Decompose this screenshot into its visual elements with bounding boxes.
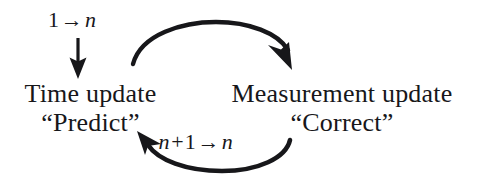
iteration-start-value: 1 [48,7,59,32]
iteration-variable-n: n [84,7,96,32]
measurement-update-title: Measurement update [222,80,462,108]
entry-down-arrow [70,38,87,79]
increment-variable-n-right: n [221,129,233,154]
plus-sign: + [170,129,185,154]
iteration-start-label: 1→n [48,8,97,31]
kalman-cycle-diagram: 1→n Time update “Predict” Measurement up… [0,0,478,186]
increment-value: 1 [185,129,196,154]
time-update-title: Time update [8,80,173,108]
time-update-subtitle: “Predict” [8,109,173,137]
time-update-block: Time update “Predict” [8,80,173,136]
measurement-update-subtitle: “Correct” [222,109,462,137]
measurement-update-block: Measurement update “Correct” [222,80,462,136]
iteration-increment-label: n+1→n [158,130,233,153]
top-curved-arrow [133,22,292,70]
right-arrow-icon-bottom: → [196,129,221,154]
right-arrow-icon: → [59,7,84,32]
increment-variable-n-left: n [158,129,170,154]
